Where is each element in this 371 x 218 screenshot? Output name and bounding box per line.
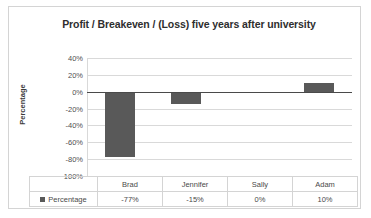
y-axis-tick-labels: 40%20%0%-20%-40%-60%-80%100% — [35, 58, 83, 176]
table-category-cell: Brad — [98, 177, 163, 192]
gridline — [87, 159, 352, 160]
bar-adam — [304, 83, 334, 91]
legend-label: Percentage — [48, 195, 86, 204]
table-category-cell: Adam — [293, 177, 358, 192]
legend-swatch-icon — [40, 197, 45, 202]
chart-title: Profit / Breakeven / (Loss) five years a… — [49, 18, 329, 31]
table-value-cell: -15% — [163, 192, 228, 207]
legend-entry: Percentage — [30, 192, 98, 207]
plot-area — [87, 58, 352, 176]
y-axis-tick-label: -80% — [37, 155, 83, 164]
table-corner-cell — [30, 177, 98, 192]
table-row-values: Percentage -77%-15%0%10% — [30, 192, 358, 207]
gridline — [87, 58, 352, 59]
y-axis-tick-label: -40% — [37, 121, 83, 130]
gridline — [87, 75, 352, 76]
y-axis-tick-label: -60% — [37, 138, 83, 147]
bar-brad — [105, 92, 135, 157]
table-value-cell: -77% — [98, 192, 163, 207]
chart-data-table: BradJenniferSallyAdam Percentage -77%-15… — [29, 176, 358, 207]
bar-jennifer — [171, 92, 201, 105]
table-category-cell: Sally — [228, 177, 293, 192]
y-axis-tick-label: 0% — [37, 87, 83, 96]
table-row-categories: BradJenniferSallyAdam — [30, 177, 358, 192]
zero-axis-line — [87, 92, 352, 93]
table-category-cell: Jennifer — [163, 177, 228, 192]
y-axis-tick-label: 40% — [37, 54, 83, 63]
chart-frame: Profit / Breakeven / (Loss) five years a… — [8, 6, 361, 209]
table-value-cell: 0% — [228, 192, 293, 207]
y-axis-tick-label: 20% — [37, 70, 83, 79]
table-value-cell: 10% — [293, 192, 358, 207]
y-axis-title: Percentage — [18, 70, 27, 140]
y-axis-tick-label: -20% — [37, 104, 83, 113]
